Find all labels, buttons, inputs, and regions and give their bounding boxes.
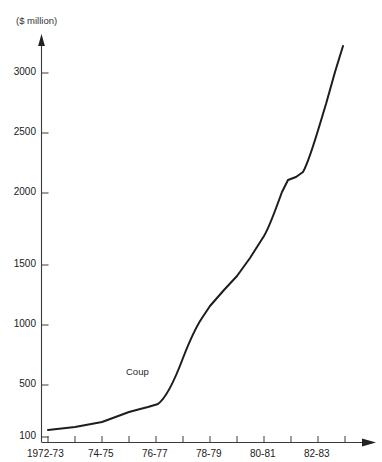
x-tick-label-1972-73: 1972-73 [27,448,64,459]
x-tick-label-78-79: 78-79 [196,448,222,459]
x-axis-ticks [48,436,345,443]
y-tick-label-1000: 1000 [0,318,36,329]
data-series-line [48,46,343,430]
x-tick-label-76-77: 76-77 [142,448,168,459]
line-chart: ($ million) [0,0,382,462]
x-tick-label-82-83: 82-83 [304,448,330,459]
x-tick-label-74-75: 74-75 [88,448,114,459]
y-tick-label-2000: 2000 [0,186,36,197]
y-axis [38,34,45,442]
y-tick-label-500: 500 [0,378,36,389]
y-tick-label-3000: 3000 [0,66,36,77]
x-axis [42,439,377,447]
y-tick-label-100: 100 [0,430,36,441]
y-tick-label-2500: 2500 [0,126,36,137]
x-tick-label-80-81: 80-81 [250,448,276,459]
y-tick-label-1500: 1500 [0,258,36,269]
chart-canvas [0,0,382,462]
annotation-coup: Coup [126,366,149,377]
y-axis-ticks [42,73,49,437]
